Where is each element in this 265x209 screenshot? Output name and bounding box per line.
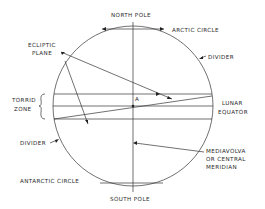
arrowhead (55, 139, 59, 143)
arrowhead (102, 27, 106, 31)
meridian-label-3: MERIDIAN (206, 164, 237, 171)
torrid-zone-label-1: TORRID (12, 97, 36, 104)
meridian-label-1: MEDIAVOLVA (206, 148, 246, 155)
north-pole-label: NORTH POLE (111, 12, 151, 19)
antarctic-circle-label: ANTARCTIC CIRCLE (20, 178, 79, 185)
divider-top-label: DIVIDER (208, 54, 234, 61)
south-pole-label: SOUTH POLE (110, 196, 150, 203)
arctic-circle-label: ARCTIC CIRCLE (172, 27, 219, 34)
ecliptic-pointer-left (65, 61, 88, 124)
ecliptic-pointer-right (61, 52, 172, 99)
torrid-zone-brace (39, 94, 45, 119)
meridian-label-2: OR CENTRAL (206, 156, 246, 163)
arrowhead (156, 92, 160, 96)
arrowhead (133, 141, 137, 145)
arrowhead (167, 96, 172, 99)
torrid-zone-label-2: ZONE (14, 106, 32, 113)
ecliptic-plane-label-1: ECLIPTIC (26, 42, 58, 49)
lunar-equator-label-1: LUNAR (222, 100, 243, 107)
arrowhead (85, 120, 88, 124)
lunar-equator-label-2: EQUATOR (218, 109, 248, 116)
center-point-a-label: A (135, 96, 139, 103)
meridian-pointer (135, 143, 204, 152)
arrowhead (160, 27, 164, 31)
center-point-a-dot (132, 105, 135, 108)
divider-bottom-label: DIVIDER (20, 140, 46, 147)
ecliptic-plane-label-2: PLANE (26, 50, 58, 57)
arrowhead (199, 56, 203, 59)
